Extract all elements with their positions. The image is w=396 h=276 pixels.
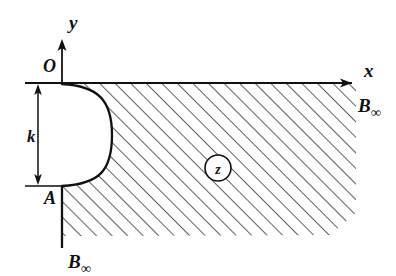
figure-canvas: z x y O A k B ∞ B ∞ [0,0,396,276]
b-infinity-right-base: B [357,95,371,116]
b-infinity-bottom-subscript: ∞ [81,261,91,276]
diagram-svg: z x y O A k B ∞ B ∞ [0,0,396,276]
y-axis-label: y [67,12,78,33]
k-dimension-label: k [27,127,36,146]
b-infinity-bottom-base: B [67,251,81,272]
b-infinity-right-subscript: ∞ [371,105,381,120]
b-infinity-right-label: B ∞ [357,95,381,120]
origin-label: O [43,56,56,76]
b-infinity-bottom-label: B ∞ [67,251,91,276]
y-axis [58,39,67,83]
point-a-label: A [43,188,56,208]
x-axis-label: x [363,60,374,81]
region-label-text: z [214,162,221,177]
region-label-group: z [205,155,231,181]
